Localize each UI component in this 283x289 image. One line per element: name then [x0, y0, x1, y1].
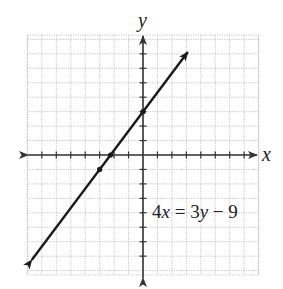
equation-part-mid: = 3 — [170, 201, 200, 222]
y-axis-label: y — [136, 9, 147, 32]
equation-part-const: − 9 — [208, 201, 238, 222]
equation-label: 4x = 3y − 9 — [152, 201, 238, 222]
equation-part-y: y — [198, 201, 209, 222]
marked-point — [97, 167, 102, 172]
linear-equation-graph: x y 4x = 3y − 9 — [0, 0, 283, 289]
marked-point — [108, 152, 113, 157]
equation-part-coef: 4 — [152, 201, 162, 222]
marked-point — [140, 109, 145, 114]
x-axis-label: x — [261, 143, 271, 165]
